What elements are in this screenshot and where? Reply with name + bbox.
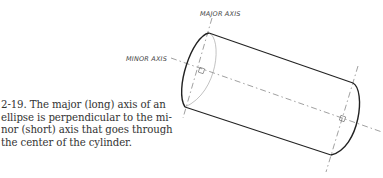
cylinder-bottom-edge bbox=[185, 107, 331, 155]
caption-line: nor (short) axis that goes through bbox=[1, 124, 197, 137]
major-axis-label: MAJOR AXIS bbox=[200, 10, 241, 18]
minor-axis-label: MINOR AXIS bbox=[126, 55, 167, 63]
caption-line: 2-19. The major (long) axis of an bbox=[1, 99, 197, 112]
major-axis-line-right bbox=[326, 66, 358, 172]
cylinder-diagram bbox=[0, 0, 383, 178]
left-ellipse-front bbox=[182, 33, 209, 107]
cylinder-top-edge bbox=[209, 33, 353, 83]
caption-line: the center of the cylinder. bbox=[1, 137, 197, 150]
minor-axis-line bbox=[171, 58, 382, 132]
figure-caption: 2-19. The major (long) axis of an ellips… bbox=[1, 99, 197, 149]
caption-line: ellipse is perpendicular to the mi- bbox=[1, 112, 197, 125]
